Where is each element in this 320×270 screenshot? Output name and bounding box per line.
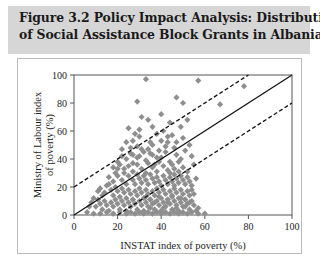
data-point [158,138,164,144]
y-tick-label: 100 [52,70,67,81]
data-point [189,153,195,159]
data-point [202,211,208,217]
data-point [180,100,186,106]
data-point [143,76,149,82]
data-point [125,125,131,131]
data-point [149,124,155,130]
scatter-chart: 020406080100020406080100INSTAT index of … [17,58,302,254]
x-tick-label: 100 [285,221,300,232]
x-tick-label: 80 [243,221,253,232]
x-tick-label: 60 [200,221,210,232]
upper-band-line [74,75,248,187]
data-point [180,135,186,141]
y-tick-label: 80 [57,98,67,109]
data-point [173,152,179,158]
data-point [119,146,125,152]
data-point [84,209,90,215]
y-tick-label: 20 [57,182,67,193]
data-point [136,127,142,133]
x-axis-title: INSTAT index of poverty (%) [120,240,246,252]
data-point [180,164,186,170]
data-point [173,139,179,145]
data-point [156,148,162,154]
data-point [91,211,97,217]
x-tick-label: 40 [156,221,166,232]
plot-area: 020406080100020406080100INSTAT index of … [32,70,300,253]
data-point [182,148,188,154]
data-point [173,94,179,100]
data-point [158,111,164,117]
figure-container: Figure 3.2 Policy Impact Analysis: Distr… [0,0,318,270]
data-point [130,138,136,144]
data-point [217,101,223,107]
data-point [134,99,140,105]
data-point [195,78,201,84]
y-axis-title: of poverty (%) [44,114,56,176]
y-tick-label: 40 [57,154,67,165]
data-point [106,174,112,180]
data-point [145,117,151,123]
data-point [138,114,144,120]
data-point [178,124,184,130]
figure-title-line-2: of Social Assistance Block Grants in Alb… [19,27,303,44]
figure-title: Figure 3.2 Policy Impact Analysis: Distr… [19,10,303,43]
x-tick-label: 0 [72,221,77,232]
figure-title-line-1: Figure 3.2 Policy Impact Analysis: Distr… [19,10,303,27]
data-point [241,83,247,89]
y-tick-label: 60 [57,126,67,137]
data-point [160,163,166,169]
x-tick-label: 20 [113,221,123,232]
data-point [193,176,199,182]
y-axis-title: Ministry of Labour index [32,91,43,198]
y-tick-label: 0 [62,210,67,221]
data-point [154,169,160,175]
data-point [184,117,190,123]
data-point [123,139,129,145]
